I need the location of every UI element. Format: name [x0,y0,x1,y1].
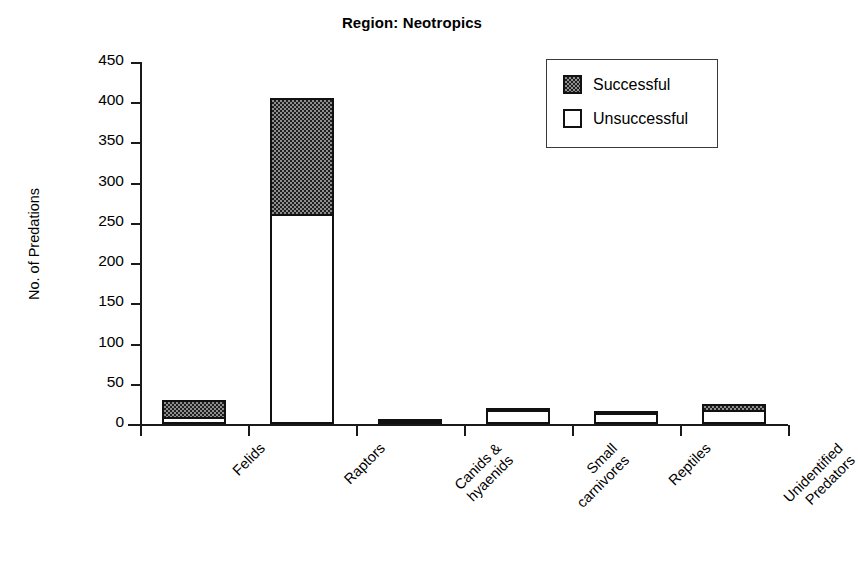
y-axis-line [140,62,142,425]
y-tick-label-250: 250 [98,212,124,230]
y-tick-label-150: 150 [98,292,124,310]
legend-item-successful: Successful [563,75,670,94]
y-tick-label-400: 400 [98,91,124,109]
y-tick-450: 450 [131,62,140,64]
x-tick-5 [680,425,682,436]
y-tick-350: 350 [131,142,140,144]
x-axis-label-4: Reptiles [665,440,714,489]
x-axis-label-0: Felids [229,440,268,479]
y-tick-150: 150 [131,303,140,305]
y-tick-100: 100 [131,344,140,346]
x-axis-label-3: Small carnivores [562,440,633,511]
bar-segment-unsuccessful [270,214,334,424]
x-tick-4 [572,425,574,436]
bar-group [162,398,226,424]
y-axis-title: No. of Predations [26,164,42,324]
x-tick-3 [464,425,466,436]
bar-segment-successful [486,408,550,412]
y-tick-200: 200 [131,263,140,265]
bar-segment-successful [594,411,658,415]
bar-group [270,96,334,424]
y-tick-label-300: 300 [98,172,124,190]
y-tick-label-0: 0 [115,413,124,431]
bar-segment-unsuccessful [702,410,766,424]
x-axis-label-2: Canids & hyaenids [451,440,516,505]
x-axis-label-5: Unidentified Predators [780,440,858,518]
x-tick-6 [788,425,790,436]
bar-group [486,410,550,424]
legend-swatch-successful-icon [563,75,582,94]
y-tick-label-100: 100 [98,333,124,351]
y-tick-label-450: 450 [98,51,124,69]
x-tick-0 [140,425,142,436]
y-tick-50: 50 [131,384,140,386]
x-tick-2 [356,425,358,436]
y-tick-label-350: 350 [98,131,124,149]
bar-segment-unsuccessful [486,410,550,424]
chart-legend: Successful Unsuccessful [546,59,718,148]
y-tick-300: 300 [131,183,140,185]
bar-segment-successful [702,404,766,412]
bar-segment-successful [162,400,226,419]
x-axis-label-1: Raptors [341,440,389,488]
legend-label-unsuccessful: Unsuccessful [593,110,688,128]
bar-group [378,422,442,424]
legend-label-successful: Successful [593,76,670,94]
bar-group [594,409,658,424]
bar-segment-successful [270,98,334,216]
y-tick-400: 400 [131,102,140,104]
legend-item-unsuccessful: Unsuccessful [563,109,688,128]
y-tick-250: 250 [131,223,140,225]
x-axis-line [128,424,788,426]
bar-segment-successful [378,419,442,423]
chart-title: Region: Neotropics [0,14,824,31]
legend-swatch-unsuccessful-icon [563,109,582,128]
bar-group [702,401,766,424]
y-tick-label-50: 50 [107,373,124,391]
x-tick-1 [248,425,250,436]
y-tick-0: 0 [131,424,140,426]
y-tick-label-200: 200 [98,252,124,270]
